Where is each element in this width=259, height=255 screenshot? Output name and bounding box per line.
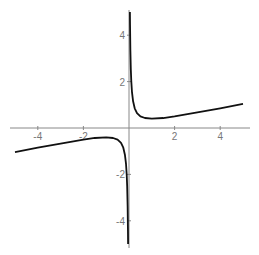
x-tick-label: 4 — [217, 131, 223, 142]
branch-negative-curve — [15, 137, 128, 244]
x-tick-label: 2 — [172, 131, 178, 142]
y-tick-label: 2 — [119, 77, 125, 88]
y-tick-label: 4 — [119, 30, 125, 41]
y-tick-label: -4 — [116, 216, 125, 227]
y-tick-label: -2 — [116, 169, 125, 180]
function-plot: -4-22442-2-4 — [0, 0, 259, 255]
branch-positive-curve — [130, 12, 243, 119]
x-tick-label: -4 — [33, 131, 42, 142]
